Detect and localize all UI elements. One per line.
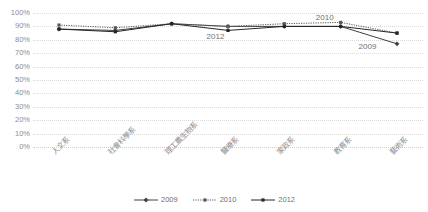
chart-title xyxy=(0,0,428,4)
legend-entry-2012[interactable]: 2012 xyxy=(250,196,295,204)
legend-swatch-icon xyxy=(250,196,276,204)
data-point-marker xyxy=(283,25,286,28)
legend-label: 2010 xyxy=(220,196,237,204)
y-axis-tick-label: 10% xyxy=(0,130,30,138)
data-point-marker xyxy=(114,26,117,29)
x-axis: 人文系社會科學系理工農生物系醫療系家政系教育系藝術系 xyxy=(33,147,423,192)
legend-swatch-icon xyxy=(192,196,218,204)
data-point-marker xyxy=(226,29,229,32)
y-axis-tick-label: 20% xyxy=(0,116,30,124)
data-point-marker xyxy=(226,25,229,28)
y-axis-tick-label: 70% xyxy=(0,49,30,57)
data-point-marker xyxy=(57,27,60,30)
legend-entry-2010[interactable]: 2010 xyxy=(192,196,237,204)
line-chart: 100%90%80%70%60%50%40%30%20%10%0% 201020… xyxy=(0,0,428,212)
y-axis-tick-label: 80% xyxy=(0,36,30,44)
series-2010 xyxy=(57,21,398,35)
y-axis-tick-label: 90% xyxy=(0,22,30,30)
legend-swatch-icon xyxy=(133,196,159,204)
legend-label: 2009 xyxy=(161,196,178,204)
y-axis-tick-label: 100% xyxy=(0,9,30,17)
data-point-marker xyxy=(170,22,173,25)
legend-label: 2012 xyxy=(278,196,295,204)
y-axis-tick-label: 30% xyxy=(0,103,30,111)
y-axis: 100%90%80%70%60%50%40%30%20%10%0% xyxy=(0,13,30,147)
y-axis-tick-label: 40% xyxy=(0,89,30,97)
y-axis-tick-label: 0% xyxy=(0,143,30,151)
data-point-marker xyxy=(57,23,60,26)
data-point-marker xyxy=(114,30,117,33)
series-annotation-label: 2010 xyxy=(316,13,334,22)
series-annotation-label: 2012 xyxy=(207,32,225,41)
series-annotation-label: 2009 xyxy=(359,42,377,51)
y-axis-tick-label: 60% xyxy=(0,63,30,71)
data-point-marker xyxy=(395,32,398,35)
chart-legend: 200920102012 xyxy=(0,192,428,208)
series-layer xyxy=(33,13,423,147)
plot-area: 201020122009 xyxy=(33,13,423,147)
legend-entry-2009[interactable]: 2009 xyxy=(133,196,178,204)
data-point-marker xyxy=(339,21,342,24)
y-axis-tick-label: 50% xyxy=(0,76,30,84)
data-point-marker xyxy=(339,25,342,28)
data-point-marker xyxy=(395,41,400,46)
